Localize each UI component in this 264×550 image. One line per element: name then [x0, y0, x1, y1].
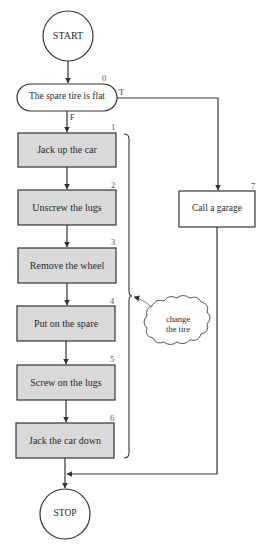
flowchart-canvas [0, 0, 264, 550]
annotation-line-1: change [152, 315, 204, 324]
step-3-number: 3 [111, 238, 115, 247]
step-2-number: 2 [111, 181, 115, 190]
step-5-number: 5 [110, 355, 114, 364]
step-7-number: 7 [251, 182, 255, 191]
true-branch-line [117, 98, 218, 190]
step-1-number: 1 [111, 123, 115, 132]
true-branch-label: T [119, 88, 124, 97]
annotation-line-2: the tire [152, 325, 204, 334]
step-4-label: Put on the spare [17, 319, 115, 329]
step-7-label: Call a garage [179, 204, 255, 214]
grouping-brace [124, 134, 132, 458]
start-label: START [43, 31, 93, 41]
step-3-label: Remove the wheel [18, 261, 116, 271]
step-6-number: 6 [110, 414, 114, 423]
step-4-number: 4 [110, 297, 114, 306]
stop-label: STOP [40, 509, 90, 519]
step-2-label: Unscrew the lugs [18, 203, 116, 213]
false-branch-label: F [70, 113, 75, 122]
step-6-label: Jack the car down [16, 436, 114, 446]
decision-label: The spare tire is flat [17, 92, 117, 102]
decision-number: 0 [102, 74, 106, 83]
step-1-label: Jack up the car [18, 145, 116, 155]
step-5-label: Screw on the lugs [17, 378, 115, 388]
